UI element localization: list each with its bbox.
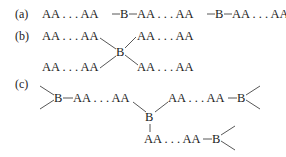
branch-unit-b: B xyxy=(237,91,245,105)
chain-segment: AA . . . AA xyxy=(144,132,201,146)
panel-b-star: (b) AA . . . AA AA . . . AA B AA . . . A… xyxy=(15,29,194,74)
chain-segment: AA . . . AA xyxy=(232,7,286,21)
bond-line xyxy=(246,86,260,95)
bond-line xyxy=(40,100,54,109)
chain-segment: AA . . . AA xyxy=(42,29,99,43)
chain-segment: AA . . . AA xyxy=(42,7,99,21)
panel-a-label: (a) xyxy=(15,7,28,21)
chain-segment: AA . . . AA xyxy=(137,7,194,21)
branch-unit-b: B xyxy=(145,110,153,124)
panel-a-linear: (a) AA . . . AA B AA . . . AA B AA . . .… xyxy=(15,7,286,21)
bond-line xyxy=(221,126,235,135)
branch-unit-b: B xyxy=(215,7,223,21)
chain-segment: AA . . . AA xyxy=(137,60,194,74)
panel-c-label: (c) xyxy=(15,77,28,91)
bond-line xyxy=(221,141,235,150)
panel-c-branched: (c) B AA . . . AA B AA . . . AA B AA . .… xyxy=(15,77,260,150)
branch-unit-b: B xyxy=(116,45,124,59)
bond-line xyxy=(246,100,260,109)
polymer-structure-diagram: (a) AA . . . AA B AA . . . AA B AA . . .… xyxy=(0,0,286,157)
branch-unit-b: B xyxy=(54,91,62,105)
bond-line xyxy=(40,86,54,95)
bond-line xyxy=(155,102,168,112)
chain-segment: AA . . . AA xyxy=(73,91,130,105)
branch-unit-b: B xyxy=(120,7,128,21)
panel-b-label: (b) xyxy=(15,29,29,43)
chain-segment: AA . . . AA xyxy=(168,91,225,105)
chain-segment: AA . . . AA xyxy=(42,60,99,74)
bond-line xyxy=(125,37,136,48)
branch-unit-b: B xyxy=(212,132,220,146)
bond-line xyxy=(100,56,116,68)
chain-segment: AA . . . AA xyxy=(137,29,194,43)
bond-line xyxy=(100,38,116,49)
